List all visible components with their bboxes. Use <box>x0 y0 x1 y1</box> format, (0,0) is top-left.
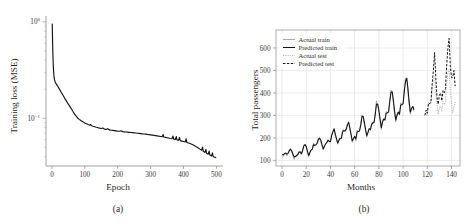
panel-b-caption: (b) <box>359 204 370 215</box>
two-panel-figure: 010020030040050010010−1 Epoch Training l… <box>0 0 473 222</box>
panel-b-text-layer: Months Total passengers (b) <box>236 0 473 222</box>
panel-a-text-layer: Epoch Training loss (MSE) (a) <box>0 0 236 222</box>
panel-a-xaxis-title: Epoch <box>106 182 130 192</box>
panel-a-yaxis-title: Training loss (MSE) <box>9 58 19 133</box>
panel-b-passenger-forecast: 020406080100120140100200300400500600 Act… <box>236 0 473 222</box>
panel-b-yaxis-title: Total passengers <box>250 69 260 130</box>
panel-b-xaxis-title: Months <box>347 182 376 192</box>
panel-a-training-loss: 010020030040050010010−1 Epoch Training l… <box>0 0 236 222</box>
panel-a-caption: (a) <box>113 204 123 215</box>
